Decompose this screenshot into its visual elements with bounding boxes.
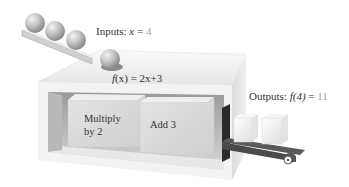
output-function-call: f(4) [290, 90, 306, 102]
step-multiply-label: Multiply by 2 [84, 112, 121, 138]
output-cube [262, 114, 288, 144]
input-value: 4 [146, 25, 152, 37]
input-ball [45, 21, 65, 41]
input-ball [100, 49, 120, 69]
output-cube [234, 114, 258, 142]
inputs-label-text: Inputs: [96, 25, 127, 37]
function-expression: 2x+3 [140, 72, 163, 84]
step-multiply-line2: by 2 [84, 125, 121, 138]
function-label: f(x) = 2x+3 [112, 72, 162, 84]
inputs-equals: = [134, 25, 146, 37]
inputs-label: Inputs: x = 4 [96, 25, 151, 37]
output-value: 11 [317, 90, 328, 102]
step-add-label: Add 3 [150, 118, 176, 131]
outputs-label-text: Outputs: [249, 90, 287, 102]
outputs-equals: = [306, 90, 318, 102]
step-multiply-line1: Multiply [84, 112, 121, 125]
outputs-label: Outputs: f(4) = 11 [249, 90, 328, 102]
function-arg: (x) [115, 72, 128, 84]
function-equals: = [128, 72, 140, 84]
input-ball [25, 13, 45, 33]
step-add-line1: Add 3 [150, 118, 176, 131]
input-ball [66, 30, 86, 50]
